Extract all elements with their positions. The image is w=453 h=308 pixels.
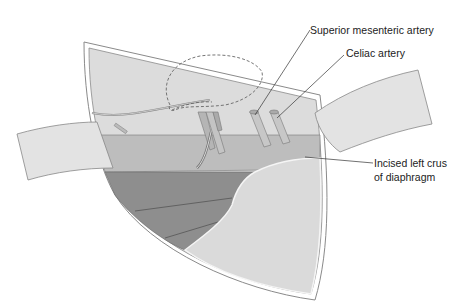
label-superior-mesenteric-artery: Superior mesenteric artery xyxy=(310,24,434,37)
celiac-opening xyxy=(270,110,279,114)
label-incised-crus-line1: Incised left crus xyxy=(374,157,447,170)
right-retractor xyxy=(315,70,432,152)
label-celiac-artery: Celiac artery xyxy=(346,47,405,60)
left-retractor xyxy=(17,122,113,180)
label-incised-crus-line2: of diaphragm xyxy=(374,171,435,184)
